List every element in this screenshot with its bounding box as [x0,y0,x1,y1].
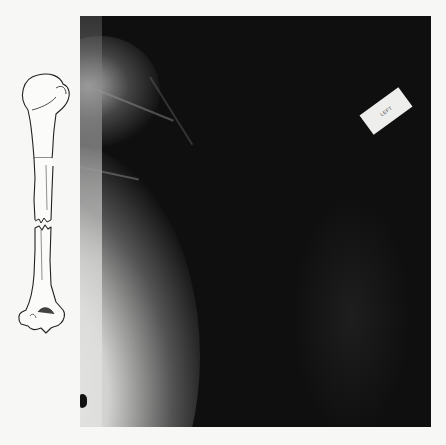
soft-tissue-glow [80,146,200,427]
humerus-illustration [8,70,83,335]
film-side-label: LEFT [360,87,413,135]
film-marker [80,394,87,408]
xray-image: LEFT [80,16,431,427]
humerus-upper-shaft [34,158,52,220]
humerus-lower-shaft [19,225,65,333]
arm-shadow [291,196,411,427]
